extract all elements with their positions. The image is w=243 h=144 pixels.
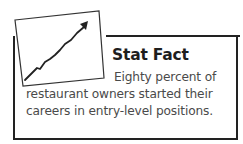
body-line-2: restaurant owners started their [26, 87, 213, 101]
body-line-1: Eighty percent of [114, 70, 216, 84]
stat-fact-title: Stat Fact [112, 46, 189, 64]
chart-card [15, 11, 104, 86]
body-line-3: careers in entry-level positions. [26, 104, 213, 118]
